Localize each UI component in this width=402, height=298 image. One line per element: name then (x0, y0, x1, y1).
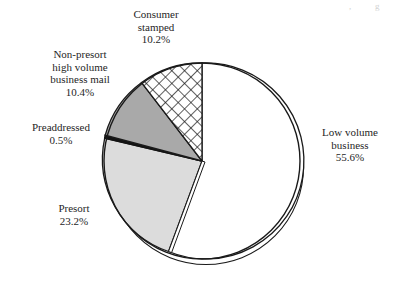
slice-label-percent: 10.4% (22, 86, 138, 99)
slice-label-line: business (303, 139, 397, 152)
slice-label-low-volume-business: Low volume business 55.6% (303, 126, 397, 164)
slice-label-presort: Presort 23.2% (26, 202, 122, 227)
slice-label-preaddressed: Preaddressed 0.5% (6, 121, 116, 146)
slice-label-percent: 23.2% (26, 215, 122, 228)
slice-label-line: Presort (26, 202, 122, 215)
slice-label-line: Low volume (303, 126, 397, 139)
slice-label-percent: 0.5% (6, 134, 116, 147)
slice-label-percent: 10.2% (111, 33, 201, 46)
slice-label-line: Preaddressed (6, 121, 116, 134)
slice-label-line: Non-presort (22, 48, 138, 61)
slice-label-line: high volume (22, 61, 138, 74)
slice-label-line: business mail (22, 73, 138, 86)
slice-label-non-presort-high-volume: Non-presort high volume business mail 10… (22, 48, 138, 98)
slice-label-percent: 55.6% (303, 151, 397, 164)
pie-chart-figure: Low volume business 55.6% Presort 23.2% … (0, 0, 402, 298)
slice-label-line: stamped (111, 21, 201, 34)
slice-label-line: Consumer (111, 8, 201, 21)
slice-label-consumer-stamped: Consumer stamped 10.2% (111, 8, 201, 46)
